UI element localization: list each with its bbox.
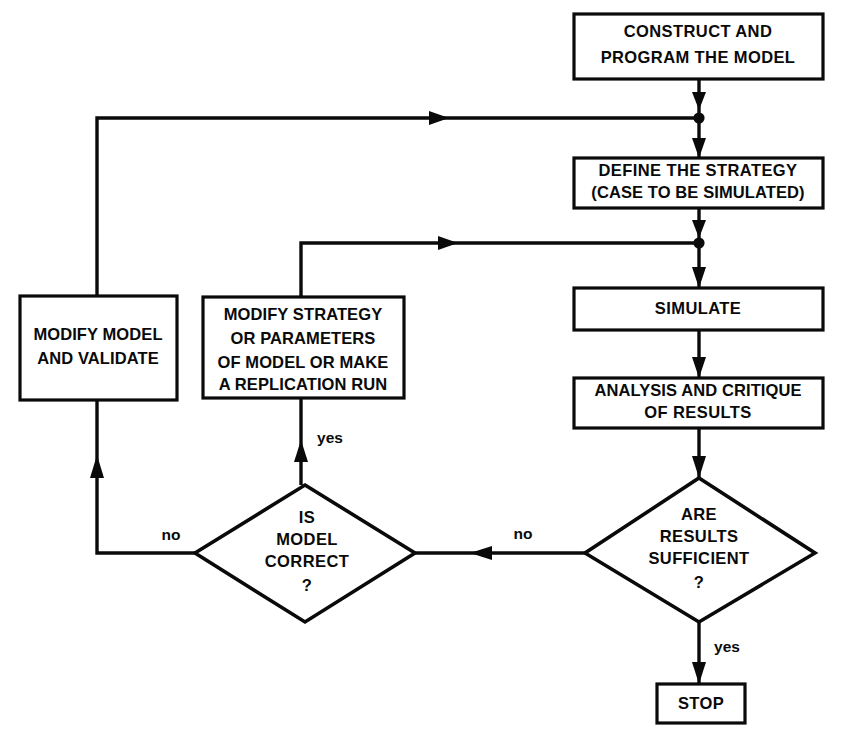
arrowhead-yes-up-icon xyxy=(294,440,308,462)
node-are-results-sufficient[interactable]: ARE RESULTS SUFFICIENT ? xyxy=(585,478,815,622)
node-construct-line2: PROGRAM THE MODEL xyxy=(601,48,796,66)
arrowhead-feedback-top-right-icon xyxy=(429,111,449,125)
node-modify-strategy-line2: OR PARAMETERS xyxy=(231,329,376,347)
node-define-the-strategy[interactable]: DEFINE THE STRATEGY (CASE TO BE SIMULATE… xyxy=(574,158,823,208)
node-model-correct-line4: ? xyxy=(302,576,312,594)
node-simulate[interactable]: SIMULATE xyxy=(574,288,823,330)
node-model-correct-line2: MODEL xyxy=(276,530,338,548)
flowchart-svg: CONSTRUCT AND PROGRAM THE MODEL DEFINE T… xyxy=(0,0,846,736)
arrowhead-define-strategy-down-icon xyxy=(692,138,706,158)
node-model-correct-line3: CORRECT xyxy=(265,552,349,570)
node-analysis-line2: OF RESULTS xyxy=(644,403,751,421)
node-construct-and-program[interactable]: CONSTRUCT AND PROGRAM THE MODEL xyxy=(574,14,823,79)
arrowhead-construct-down-icon xyxy=(692,92,706,110)
edge-label-model-correct-yes: yes xyxy=(317,429,343,446)
node-analysis-and-critique[interactable]: ANALYSIS AND CRITIQUE OF RESULTS xyxy=(574,378,823,428)
node-results-sufficient-line4: ? xyxy=(694,573,704,591)
node-results-sufficient-line1: ARE xyxy=(681,505,717,523)
arrowhead-stop-down-icon xyxy=(692,662,706,684)
arrowhead-feedback-mid-right-icon xyxy=(438,236,458,250)
node-construct-line1: CONSTRUCT AND xyxy=(624,22,773,40)
node-simulate-line1: SIMULATE xyxy=(655,299,741,317)
flowchart-canvas: CONSTRUCT AND PROGRAM THE MODEL DEFINE T… xyxy=(0,0,846,736)
arrowhead-no-left-icon xyxy=(470,546,492,560)
arrowhead-junction-b-down-icon xyxy=(692,220,706,238)
node-modify-model-line1: MODIFY MODEL xyxy=(33,325,162,343)
node-define-strategy-line1: DEFINE THE STRATEGY xyxy=(599,161,798,179)
node-analysis-line1: ANALYSIS AND CRITIQUE xyxy=(594,381,801,399)
arrowhead-no-up-icon xyxy=(90,455,104,478)
edge-label-results-to-stop: yes xyxy=(714,638,740,655)
node-modify-strategy[interactable]: MODIFY STRATEGY OR PARAMETERS OF MODEL O… xyxy=(203,297,404,398)
node-is-model-correct[interactable]: IS MODEL CORRECT ? xyxy=(195,485,415,622)
node-modify-model-line2: AND VALIDATE xyxy=(37,349,159,367)
node-modify-strategy-line4: A REPLICATION RUN xyxy=(219,375,388,393)
arrowhead-analysis-down-icon xyxy=(692,357,706,378)
node-modify-strategy-line3: OF MODEL OR MAKE xyxy=(218,353,389,371)
edge-label-results-to-model-correct: no xyxy=(514,525,533,542)
node-stop-line1: STOP xyxy=(678,694,724,712)
node-define-strategy-line2: (CASE TO BE SIMULATED) xyxy=(591,183,804,201)
arrowhead-simulate-down-icon xyxy=(692,267,706,288)
junction-dot-b xyxy=(693,237,704,248)
edge-label-model-correct-no: no xyxy=(162,526,181,543)
arrowhead-results-sufficient-down-icon xyxy=(692,456,706,478)
junction-dot-a xyxy=(693,112,704,123)
node-modify-strategy-line1: MODIFY STRATEGY xyxy=(224,305,383,323)
node-results-sufficient-line2: RESULTS xyxy=(660,527,739,545)
node-results-sufficient-line3: SUFFICIENT xyxy=(648,549,749,567)
node-modify-model-and-validate[interactable]: MODIFY MODEL AND VALIDATE xyxy=(20,296,177,400)
node-stop[interactable]: STOP xyxy=(657,684,745,723)
node-modify-model-box[interactable] xyxy=(20,296,177,400)
node-model-correct-line1: IS xyxy=(299,508,315,526)
